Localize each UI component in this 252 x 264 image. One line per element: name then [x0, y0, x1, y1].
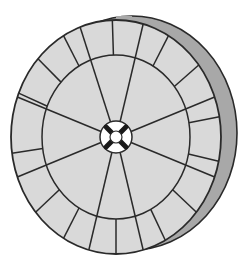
hub [100, 121, 132, 153]
hub-center [110, 131, 122, 143]
wheel-diagram [0, 0, 252, 264]
wheel-illustration [0, 0, 252, 264]
